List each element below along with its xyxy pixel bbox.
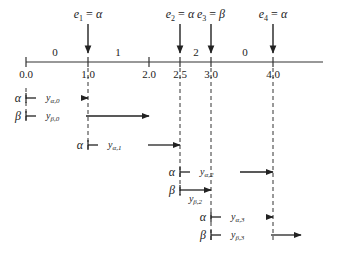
timeline-diagram: 0.01.02.02.53.04.00120 e1 = αe2 = αe3 = … (0, 0, 340, 259)
duration-label: yβ,3 (230, 229, 245, 242)
event-label: e3 = β (197, 7, 225, 23)
tick-label: 1.0 (81, 68, 95, 80)
state-label: β (14, 109, 21, 123)
state-rows: αyα,0βyβ,0αyα,1αyα,2βyβ,2αyα,3βyβ,3 (14, 91, 301, 242)
state-label: α (15, 91, 22, 105)
duration-label: yα,3 (230, 211, 245, 224)
state-row: βyβ,0 (14, 109, 149, 123)
tick-label: 4.0 (266, 68, 280, 80)
state-row: αyα,2 (169, 165, 273, 179)
state-row: βyβ,2 (168, 183, 211, 206)
duration-label: yβ,0 (45, 110, 60, 123)
tick-label: 2.5 (173, 68, 187, 80)
state-row: αyα,1 (77, 138, 180, 152)
time-axis: 0.01.02.02.53.04.00120 (19, 46, 323, 80)
event-label: e1 = α (74, 7, 103, 23)
duration-label: yα,0 (45, 92, 60, 105)
state-row: αyα,0 (15, 91, 88, 105)
duration-label: yα,1 (107, 139, 121, 152)
state-label: β (199, 228, 206, 242)
event-label: e4 = α (259, 7, 288, 23)
state-row: βyβ,3 (199, 228, 301, 242)
duration-label: yβ,2 (188, 193, 203, 206)
tick-label: 2.0 (142, 68, 156, 80)
state-label: β (168, 183, 175, 197)
interval-label: 0 (242, 46, 248, 58)
state-label: α (77, 138, 84, 152)
tick-label: 3.0 (204, 68, 218, 80)
interval-label: 1 (115, 46, 121, 58)
state-label: α (169, 165, 176, 179)
state-label: α (200, 210, 207, 224)
tick-label: 0.0 (19, 68, 33, 80)
interval-label: 0 (52, 46, 58, 58)
duration-label: yα,2 (199, 166, 214, 179)
event-arrows: e1 = αe2 = αe3 = βe4 = α (74, 7, 288, 53)
event-label: e2 = α (166, 7, 195, 23)
interval-label: 2 (193, 46, 199, 58)
state-row: αyα,3 (200, 210, 273, 224)
